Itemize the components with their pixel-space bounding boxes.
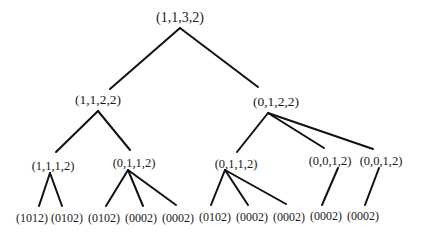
tree-node: (1,1,2,2) — [75, 93, 121, 107]
tree-edge — [50, 173, 62, 206]
tree-leaf: (0002) — [125, 212, 157, 224]
tree-node: (0,1,1,2) — [113, 157, 156, 170]
tree-edge — [211, 170, 225, 205]
tree-leaf: (0002) — [236, 211, 268, 223]
tree-edge — [98, 111, 130, 150]
tree-leaf: (0002) — [310, 210, 342, 222]
tree-edge — [180, 28, 258, 87]
tree-edge — [268, 113, 373, 149]
tree-edge — [237, 113, 268, 152]
tree-leaf: (1012) — [16, 212, 48, 224]
tree-edge — [268, 113, 324, 148]
tree-diagram: (1,1,3,2) (1,1,2,2) (0,1,2,2) (1,1,1,2) … — [0, 0, 422, 238]
tree-node: (0,0,1,2) — [360, 155, 403, 168]
tree-node: (0,0,1,2) — [309, 155, 352, 168]
tree-leaf: (0002) — [162, 212, 194, 224]
tree-node: (0,1,1,2) — [215, 158, 258, 171]
tree-edge — [322, 168, 338, 205]
tree-leaf: (0102) — [88, 212, 120, 224]
tree-edge — [225, 170, 286, 204]
tree-edge — [106, 170, 128, 206]
tree-node-root: (1,1,3,2) — [156, 11, 204, 25]
tree-edge — [110, 28, 180, 89]
tree-edge — [56, 111, 98, 152]
tree-node: (1,1,1,2) — [32, 160, 75, 173]
tree-node: (0,1,2,2) — [253, 95, 299, 109]
tree-leaf: (0002) — [347, 210, 379, 222]
tree-leaf: (0102) — [51, 212, 83, 224]
tree-edge — [39, 173, 50, 206]
tree-leaf: (0102) — [199, 211, 231, 223]
tree-edge — [225, 170, 248, 205]
tree-leaf: (0002) — [273, 211, 305, 223]
tree-edges — [0, 0, 422, 238]
tree-edge — [365, 168, 379, 205]
